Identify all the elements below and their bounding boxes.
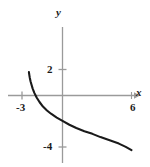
x-axis-label: x [136, 87, 142, 98]
y-tick-label-2: 2 [47, 64, 53, 75]
y-axis-label: y [56, 7, 61, 18]
function-curve [29, 72, 132, 150]
coordinate-plane-graph: y x 2 -4 -3 6 [0, 0, 150, 167]
x-tick-label-6: 6 [130, 102, 136, 113]
x-tick-label-neg3: -3 [16, 102, 25, 113]
plot-canvas [0, 0, 150, 167]
y-tick-label-neg4: -4 [43, 141, 52, 152]
